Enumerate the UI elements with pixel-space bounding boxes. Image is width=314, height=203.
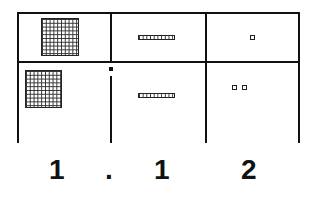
- row-divider: [17, 61, 300, 63]
- right-border: [298, 12, 300, 143]
- column-divider-tenths-hundredths: [205, 12, 207, 143]
- unit-cube-block: [250, 35, 255, 40]
- ten-rod-block: [138, 35, 175, 40]
- column-divider-ones-tenths-top: [110, 12, 112, 63]
- column-divider-ones-tenths-bottom: [110, 76, 112, 143]
- top-border: [17, 12, 300, 14]
- unit-cube-block: [232, 85, 237, 90]
- digit-hundredths: 2: [241, 156, 257, 184]
- hundred-flat-block: [41, 18, 79, 56]
- ten-rod-block: [138, 93, 175, 98]
- left-border: [17, 12, 19, 143]
- decimal-point-marker: [109, 67, 113, 71]
- digit-tenths: 1: [154, 156, 170, 184]
- decimal-point: .: [105, 156, 113, 184]
- hundred-flat-block: [25, 70, 62, 108]
- unit-cube-block: [242, 85, 247, 90]
- digit-ones: 1: [49, 156, 65, 184]
